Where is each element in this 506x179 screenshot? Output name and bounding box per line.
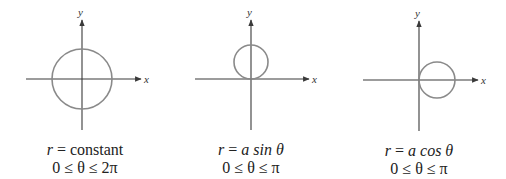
x-axis-label: x [311,73,317,85]
y-axis-label: y [77,6,83,18]
caption-constant: r = constant 0 ≤ θ ≤ 2π [0,141,170,177]
panel-constant: x y [26,6,149,130]
theta-range: 0 ≤ θ ≤ π [334,160,504,178]
x-axis-label: x [480,74,486,86]
equation: r = constant [0,141,170,159]
equation: r = a sin θ [166,141,336,159]
caption-a-sin-theta: r = a sin θ 0 ≤ θ ≤ π [166,141,336,177]
panel-a-sin-theta: x y [195,6,317,130]
x-axis-label: x [143,73,149,85]
theta-range: 0 ≤ θ ≤ 2π [0,159,170,177]
y-axis-label: y [246,6,252,18]
y-axis-label: y [414,7,420,19]
caption-a-cos-theta: r = a cos θ 0 ≤ θ ≤ π [334,142,504,178]
panel-a-cos-theta: x y [363,7,486,131]
equation: r = a cos θ [334,142,504,160]
theta-range: 0 ≤ θ ≤ π [166,159,336,177]
